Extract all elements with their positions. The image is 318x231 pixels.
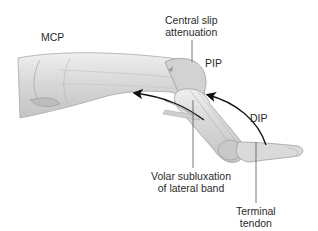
volar-line1: Volar subluxation xyxy=(151,170,231,182)
dip-label: DIP xyxy=(250,112,268,124)
volar-line2: of lateral band xyxy=(151,182,231,194)
finger-anatomy-diagram: MCP Central slip attenuation PIP DIP Vol… xyxy=(0,0,318,231)
volar-subluxation-label: Volar subluxation of lateral band xyxy=(151,170,231,194)
central-slip-line1: Central slip xyxy=(165,14,218,26)
terminal-line1: Terminal xyxy=(236,205,276,217)
central-slip-line2: attenuation xyxy=(165,26,218,38)
pip-label: PIP xyxy=(205,57,222,69)
terminal-line2: tendon xyxy=(236,217,276,229)
central-slip-label: Central slip attenuation xyxy=(165,14,218,38)
terminal-tendon-label: Terminal tendon xyxy=(236,205,276,229)
distal-segment xyxy=(236,142,303,162)
mcp-label: MCP xyxy=(41,31,64,43)
